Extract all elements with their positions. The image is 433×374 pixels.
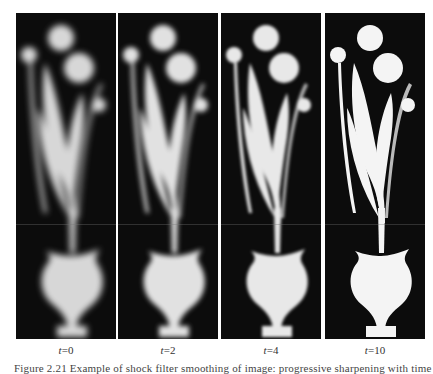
flower-vase-image bbox=[118, 13, 218, 339]
flower-vase-image bbox=[325, 13, 425, 339]
panel-t10 bbox=[325, 13, 425, 339]
scan-artifact-line bbox=[118, 224, 218, 225]
scan-artifact-line bbox=[16, 224, 116, 225]
flower-vase-image bbox=[16, 13, 116, 339]
label-t4: t=4 bbox=[221, 344, 321, 356]
panel-t0 bbox=[16, 13, 116, 339]
figure-caption: Figure 2.21 Example of shock filter smoo… bbox=[14, 362, 433, 374]
scan-artifact-line bbox=[325, 224, 425, 225]
label-t0: t=0 bbox=[16, 344, 116, 356]
label-t2: t=2 bbox=[118, 344, 218, 356]
panel-t4 bbox=[221, 13, 321, 339]
scan-artifact-line bbox=[221, 224, 321, 225]
flower-vase-image bbox=[221, 13, 321, 339]
panel-t2 bbox=[118, 13, 218, 339]
label-t10: t=10 bbox=[325, 344, 425, 356]
